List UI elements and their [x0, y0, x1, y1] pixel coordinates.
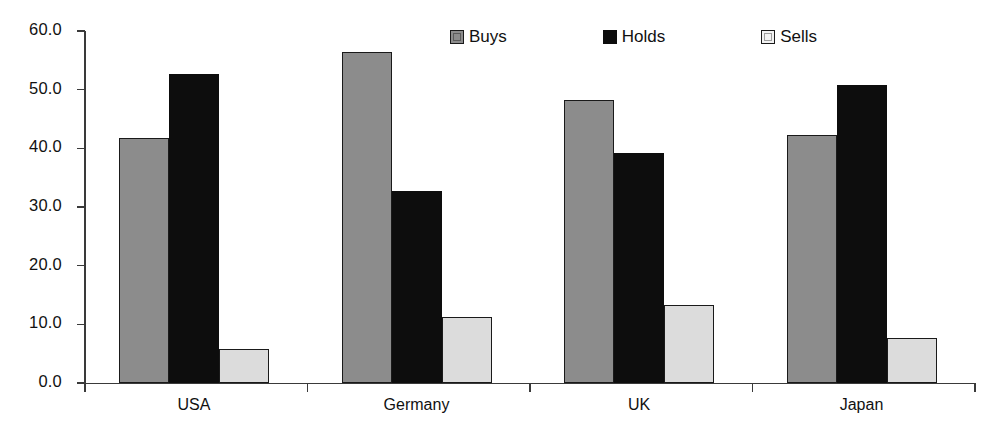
category-label-uk: UK	[559, 396, 719, 414]
legend-item-holds[interactable]: Holds	[603, 28, 665, 45]
y-axis-tick-label: 0.0	[0, 372, 62, 391]
bar-germany-buys[interactable]	[342, 52, 392, 383]
legend-label-buys: Buys	[469, 28, 507, 45]
legend-swatch-sells-icon	[761, 30, 775, 44]
legend-item-sells[interactable]: Sells	[761, 28, 817, 45]
y-axis-tick	[77, 324, 85, 326]
x-axis-tick	[752, 383, 754, 392]
y-axis-tick	[77, 206, 85, 208]
x-axis-tick	[84, 383, 86, 392]
legend-swatch-holds-icon	[603, 30, 617, 44]
y-axis-tick	[77, 30, 85, 32]
category-label-japan: Japan	[782, 396, 942, 414]
legend-item-buys[interactable]: Buys	[450, 28, 507, 45]
bar-usa-holds[interactable]	[169, 74, 219, 383]
y-axis-tick-label: 50.0	[0, 79, 62, 98]
bar-japan-holds[interactable]	[837, 85, 887, 383]
y-axis-tick-label: 40.0	[0, 137, 62, 156]
legend-swatch-buys-icon	[450, 30, 464, 44]
bar-usa-sells[interactable]	[219, 349, 269, 383]
y-axis-tick	[77, 89, 85, 91]
bar-uk-buys[interactable]	[564, 100, 614, 383]
bar-chart: 60.050.040.030.020.010.00.0 USAGermanyUK…	[0, 0, 1002, 440]
bar-uk-holds[interactable]	[614, 153, 664, 383]
bar-uk-sells[interactable]	[664, 305, 714, 383]
y-axis-tick	[77, 265, 85, 267]
y-axis-tick	[77, 148, 85, 150]
y-axis-tick-label: 10.0	[0, 313, 62, 332]
y-axis-tick-label: 20.0	[0, 255, 62, 274]
category-label-germany: Germany	[337, 396, 497, 414]
category-label-usa: USA	[114, 396, 274, 414]
y-axis-tick-label: 60.0	[0, 20, 62, 39]
bar-japan-sells[interactable]	[887, 338, 937, 383]
x-axis-tick	[974, 383, 976, 392]
x-axis-tick	[307, 383, 309, 392]
legend: Buys Holds Sells	[450, 28, 817, 45]
bar-usa-buys[interactable]	[119, 138, 169, 383]
x-axis-tick	[529, 383, 531, 392]
bar-germany-sells[interactable]	[442, 317, 492, 383]
y-axis-tick-label: 30.0	[0, 196, 62, 215]
bar-japan-buys[interactable]	[787, 135, 837, 383]
bar-germany-holds[interactable]	[392, 191, 442, 383]
legend-label-sells: Sells	[780, 28, 817, 45]
legend-label-holds: Holds	[622, 28, 665, 45]
